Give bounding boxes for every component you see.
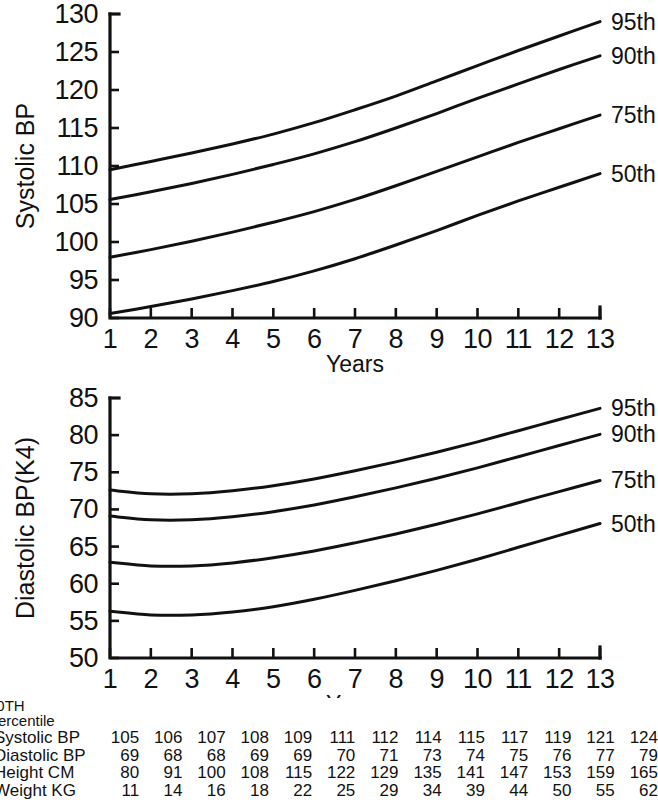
series-label-75th: 75th [611, 467, 656, 493]
table-cell: 106 [139, 729, 182, 747]
x-tick-label: 9 [429, 664, 444, 694]
x-tick-label: 5 [266, 664, 281, 694]
table-cell: 129 [355, 764, 398, 782]
table-cell: 39 [442, 782, 485, 800]
x-tick-label: 4 [225, 324, 240, 354]
y-tick-label: 90 [69, 303, 98, 333]
table-cell: 71 [355, 747, 398, 765]
y-tick-label: 75 [69, 457, 98, 487]
axis-lines [110, 14, 600, 318]
table-cell: 22 [269, 782, 312, 800]
y-axis-title: Diastolic BP(K4) [11, 437, 39, 619]
y-tick-label: 120 [54, 75, 98, 105]
x-axis-title: Years [326, 351, 384, 377]
table-cell: 69 [226, 747, 269, 765]
table-cell: 107 [182, 729, 225, 747]
y-tick-label: 80 [69, 420, 98, 450]
x-tick-label: 9 [429, 324, 444, 354]
y-tick-label: 115 [56, 113, 98, 143]
series-label-50th: 50th [611, 511, 656, 537]
blood-pressure-percentile-figure: 9095100105110115120125130123456789101112… [0, 0, 658, 805]
table-row: Weight KG11141618222529343944505562 [0, 782, 658, 800]
table-row: Height CM8091100108115122129135141147153… [0, 764, 658, 782]
series-label-95th: 95th [611, 395, 656, 421]
y-tick-label: 125 [54, 37, 98, 67]
table-cell: 68 [139, 747, 182, 765]
table-cell: 108 [226, 729, 269, 747]
x-axis-title: Years [326, 691, 384, 698]
y-tick-label: 60 [69, 569, 98, 599]
y-tick-label: 55 [69, 606, 98, 636]
table-cell: 34 [399, 782, 442, 800]
table-cell: 122 [312, 764, 355, 782]
table-cell: 76 [528, 747, 571, 765]
y-tick-label: 100 [54, 227, 98, 257]
table-cell: 69 [269, 747, 312, 765]
table-cell: 25 [312, 782, 355, 800]
table-cell: 111 [312, 729, 355, 747]
series-label-90th: 90th [611, 43, 656, 69]
y-tick-label: 65 [69, 532, 98, 562]
x-tick-label: 2 [144, 324, 159, 354]
table-cell: 91 [139, 764, 182, 782]
percentile-curve-90th [110, 56, 600, 200]
systolic-plot: 9095100105110115120125130123456789101112… [11, 0, 656, 377]
table-cell: 165 [615, 764, 658, 782]
table-cell: 147 [485, 764, 528, 782]
table-cell: 16 [182, 782, 225, 800]
table-cell: 75 [485, 747, 528, 765]
table-cell: 121 [571, 729, 614, 747]
table-cell: 11 [96, 782, 139, 800]
table-cell: 100 [182, 764, 225, 782]
table-cell: 109 [269, 729, 312, 747]
series-label-90th: 90th [611, 421, 656, 447]
table-cell: 29 [355, 782, 398, 800]
table-cell: 141 [442, 764, 485, 782]
series-label-50th: 50th [611, 161, 656, 187]
percentile-curve-90th [110, 434, 600, 520]
table-cell: 159 [571, 764, 614, 782]
table-cell: 79 [615, 747, 658, 765]
y-tick-label: 50 [69, 643, 98, 673]
table-cell: 115 [269, 764, 312, 782]
table-cell: 55 [571, 782, 614, 800]
x-tick-label: 6 [307, 324, 322, 354]
x-tick-label: 13 [585, 324, 614, 354]
table-cell: 73 [399, 747, 442, 765]
x-tick-label: 3 [184, 324, 199, 354]
percentile-curve-95th [110, 408, 600, 494]
x-tick-label: 7 [348, 324, 363, 354]
y-tick-label: 110 [56, 151, 98, 181]
table-cell: 68 [182, 747, 225, 765]
percentile-data-table: 90TH Percentile Systolic BP1051061071081… [0, 698, 658, 799]
table-cell: 114 [399, 729, 442, 747]
y-tick-label: 85 [69, 388, 98, 413]
x-tick-label: 1 [103, 324, 118, 354]
table-cell: 62 [615, 782, 658, 800]
x-tick-label: 10 [463, 324, 492, 354]
table-cell: 14 [139, 782, 182, 800]
table-cell: 18 [226, 782, 269, 800]
x-tick-label: 10 [463, 664, 492, 694]
series-label-75th: 75th [611, 102, 656, 128]
table-cell: 70 [312, 747, 355, 765]
systolic-bp-chart: 9095100105110115120125130123456789101112… [0, 0, 658, 390]
table-row: Systolic BP10510610710810911111211411511… [0, 729, 658, 747]
table-cell: 153 [528, 764, 571, 782]
row-label: Systolic BP [0, 729, 96, 747]
table-cell: 117 [485, 729, 528, 747]
x-tick-label: 11 [505, 664, 532, 694]
series-label-95th: 95th [611, 9, 656, 35]
table-cell: 105 [96, 729, 139, 747]
table-cell: 69 [96, 747, 139, 765]
y-tick-label: 95 [69, 265, 98, 295]
diastolic-plot: 50556065707580851234567891011121395th90t… [11, 388, 656, 698]
axis-lines [110, 398, 600, 658]
x-tick-label: 13 [585, 664, 614, 694]
x-tick-label: 2 [144, 664, 159, 694]
x-tick-label: 1 [103, 664, 118, 694]
x-tick-label: 8 [389, 324, 404, 354]
y-axis-title: Systolic BP [11, 103, 39, 229]
table-cell: 50 [528, 782, 571, 800]
percentile-curve-50th [110, 524, 600, 616]
